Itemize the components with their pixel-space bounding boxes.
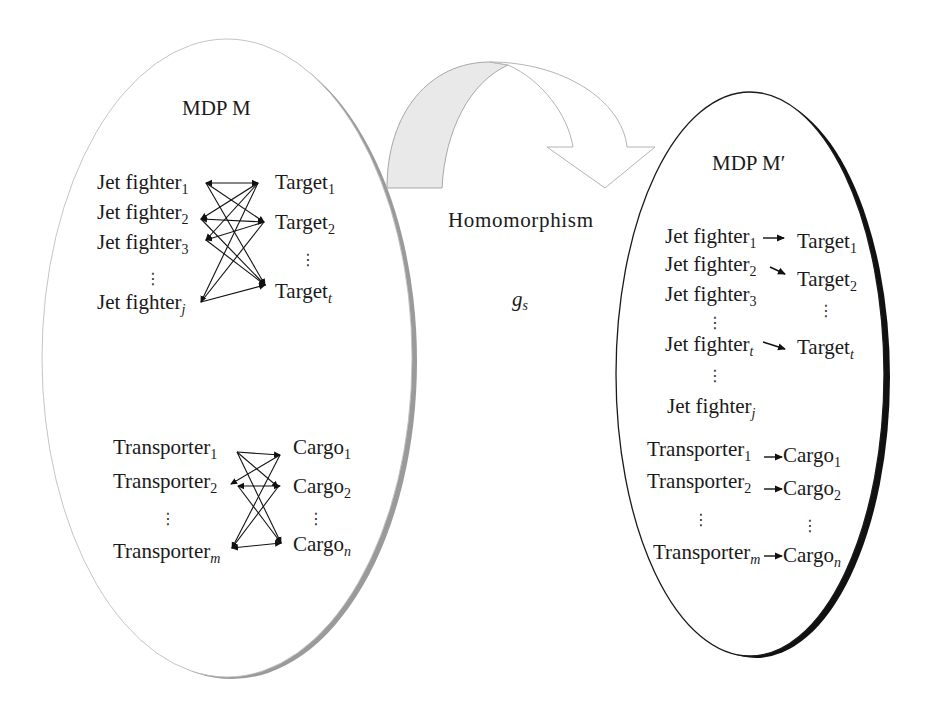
right-target-1: Target1 — [797, 229, 857, 256]
vertical-ellipsis: ⋮ — [300, 250, 316, 269]
mdp-m-ellipse — [42, 39, 417, 679]
right-target-t: Targett — [797, 335, 855, 362]
left-transporter-2: Transporter2 — [113, 469, 217, 496]
right-jet-fighter-j: Jet fighterj — [667, 394, 756, 421]
right-target-2: Target2 — [797, 267, 857, 294]
vertical-ellipsis: ⋮ — [707, 366, 723, 385]
left-jet-fighter-1: Jet fighter1 — [97, 170, 189, 197]
curved-arrow-head — [490, 62, 655, 188]
left-jet-fighter-j: Jet fighterj — [97, 290, 186, 317]
left-target-2: Target2 — [275, 210, 335, 237]
homomorphism-label: Homomorphism — [448, 208, 593, 232]
right-cargo-n: Cargon — [783, 543, 841, 570]
curved-arrow-icon — [387, 62, 655, 188]
right-jet-fighter-2: Jet fighter2 — [665, 252, 757, 279]
mdp-m-prime-ellipse — [616, 92, 890, 658]
left-cargo-2: Cargo2 — [293, 474, 351, 501]
vertical-ellipsis: ⋮ — [693, 510, 709, 529]
vertical-ellipsis: ⋮ — [802, 516, 818, 535]
mdp-m-title: MDP M — [182, 96, 251, 120]
right-jet-fighter-3: Jet fighter3 — [665, 282, 757, 309]
vertical-ellipsis: ⋮ — [308, 509, 324, 528]
curved-arrow-shaded-band — [387, 62, 508, 188]
vertical-ellipsis: ⋮ — [160, 509, 176, 528]
mapping-symbol: gs — [512, 287, 529, 313]
left-transporter-1: Transporter1 — [113, 435, 217, 462]
left-cargo-1: Cargo1 — [293, 435, 351, 462]
homomorphism-diagram: MDP M Jet fighter1 Jet fighter2 Jet figh… — [0, 0, 927, 717]
vertical-ellipsis: ⋮ — [145, 269, 161, 288]
left-target-1: Target1 — [275, 170, 335, 197]
vertical-ellipsis: ⋮ — [707, 313, 723, 332]
left-jet-fighter-2: Jet fighter2 — [97, 200, 189, 227]
left-transporter-m: Transporterm — [113, 539, 220, 566]
right-transporter-m: Transporterm — [653, 540, 760, 567]
left-cargo-n: Cargon — [293, 532, 351, 559]
right-jet-fighter-t: Jet fightert — [665, 332, 755, 359]
mdp-m-prime-title: MDP M′ — [712, 151, 785, 175]
right-jet-fighter-1: Jet fighter1 — [665, 224, 757, 251]
right-transporter-1: Transporter1 — [647, 437, 751, 464]
right-cargo-2: Cargo2 — [783, 476, 841, 503]
right-transporter-2: Transporter2 — [647, 469, 751, 496]
right-cargo-1: Cargo1 — [783, 443, 841, 470]
left-target-t: Targett — [275, 279, 333, 306]
left-jet-fighter-3: Jet fighter3 — [97, 230, 189, 257]
vertical-ellipsis: ⋮ — [818, 301, 834, 320]
